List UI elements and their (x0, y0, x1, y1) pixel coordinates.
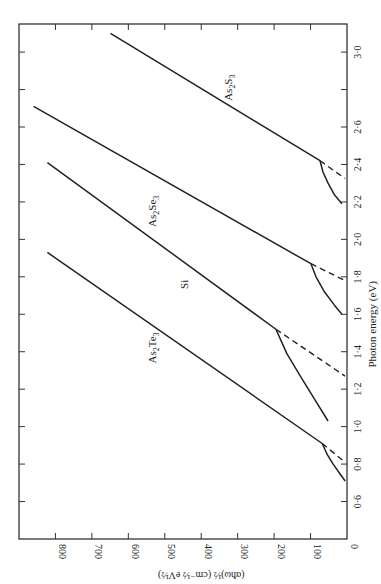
energy-tick-label: 3·0 (352, 45, 363, 58)
curve-label: As2S3 (222, 74, 237, 100)
ordinate-tick-label: 0 (349, 544, 360, 549)
energy-tick-label: 0·6 (352, 495, 363, 508)
energy-tick-label: 2·0 (352, 233, 363, 246)
energy-tick-label: 0·8 (352, 457, 363, 470)
curve-label: As2Te3 (146, 332, 161, 363)
solid-curve (47, 252, 345, 480)
curve-label: As2Se3 (146, 196, 161, 227)
absorption-edge-chart: 0·60·81·01·21·41·61·82·02·22·42·63·00100… (0, 0, 381, 584)
data-series (34, 33, 346, 481)
series-as2s3 (110, 33, 345, 203)
energy-tick-label: 1·6 (352, 308, 363, 321)
ordinate-tick-label: 800 (57, 544, 68, 559)
energy-tick-label: 1·2 (352, 383, 363, 396)
energy-tick-label: 2·4 (352, 158, 363, 171)
energy-tick-label: 2·6 (352, 120, 363, 133)
series-as2te3 (47, 252, 345, 480)
ordinate-tick-label: 700 (93, 544, 104, 559)
dashed-extrapolation (320, 161, 345, 179)
solid-curve (47, 163, 328, 421)
ordinate-tick-label: 200 (276, 544, 287, 559)
ordinate-tick-label: 100 (312, 544, 323, 559)
solid-curve (110, 33, 341, 203)
curve-labels: As2S3As2Se3SiAs2Te3 (146, 74, 238, 363)
energy-tick-label: 2·2 (352, 195, 363, 208)
ordinate-tick-label: 500 (166, 544, 177, 559)
energy-axis-label: Photon energy (eV) (366, 281, 379, 368)
ordinate-tick-label: 300 (239, 544, 250, 559)
axis-labels: Photon energy (eV)(αħω)½ (cm⁻½ eV½) (158, 281, 379, 581)
ordinate-tick-label: 600 (130, 544, 141, 559)
ordinate-tick-label: 400 (203, 544, 214, 559)
ordinate-axis-label: (αħω)½ (cm⁻½ eV½) (158, 569, 245, 581)
curve-label: Si (178, 280, 190, 289)
energy-tick-label: 1·8 (352, 270, 363, 283)
energy-tick-label: 1·0 (352, 420, 363, 433)
dashed-extrapolation (322, 443, 345, 462)
energy-tick-label: 1·4 (352, 345, 363, 358)
series-si (47, 163, 345, 421)
axis-ticks: 0·60·81·01·21·41·61·82·02·22·42·63·00100… (19, 24, 363, 559)
